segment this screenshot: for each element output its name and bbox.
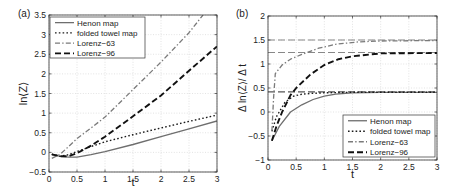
- y-tick-label: 0: [41, 147, 46, 157]
- panel-b-plot: 00.511.522.53−1−0.500.511.52tΔ ln⟨Z⟩/ Δ …: [236, 8, 440, 180]
- y-tick-label: 2: [260, 11, 265, 21]
- legend-entry-label: Lorenz−63: [370, 138, 409, 147]
- y-tick-label: 1: [260, 59, 265, 69]
- legend: Henon mapfolded towel mapLorenz−63Lorenz…: [50, 17, 145, 58]
- x-tick-label: 2: [378, 162, 383, 172]
- legend-entry-label: Lorenz−96: [370, 148, 409, 157]
- y-tick-label: 0.5: [34, 128, 46, 138]
- figure: 00.511.522.53−0.500.511.522.533.5tln⟨Z⟩(…: [0, 0, 453, 189]
- y-tick-label: 3.5: [34, 10, 46, 20]
- x-axis-label: t: [351, 168, 354, 180]
- x-tick-label: 3: [215, 174, 220, 184]
- panel-a-plot: 00.511.522.53−0.500.511.522.533.5tln⟨Z⟩(…: [17, 8, 220, 188]
- y-tick-label: 1: [41, 108, 46, 118]
- x-tick-label: 2: [159, 174, 164, 184]
- x-tick-label: 0.5: [290, 162, 302, 172]
- x-tick-label: 2.5: [403, 162, 415, 172]
- legend: Henon mapfolded towel mapLorenz−63Lorenz…: [343, 115, 435, 157]
- panel-label: (b): [236, 8, 248, 19]
- y-tick-label: −0.5: [29, 167, 46, 177]
- x-tick-label: 1: [103, 174, 108, 184]
- legend-entry-label: Lorenz−96: [77, 49, 116, 58]
- x-axis-label: t: [131, 176, 134, 188]
- y-tick-label: 0: [260, 107, 265, 117]
- y-tick-label: −1: [255, 155, 265, 165]
- y-axis-label: Δ ln⟨Z⟩/ Δ t: [237, 64, 248, 112]
- x-tick-label: 0: [266, 162, 271, 172]
- x-tick-label: 2.5: [183, 174, 195, 184]
- x-tick-label: 0: [47, 174, 52, 184]
- legend-entry-label: folded towel map: [77, 29, 138, 38]
- legend-entry-label: Henon map: [77, 19, 119, 28]
- y-tick-label: 0.5: [253, 83, 265, 93]
- y-axis-label: ln⟨Z⟩: [17, 82, 29, 105]
- y-tick-label: 1.5: [34, 89, 46, 99]
- x-tick-label: 1: [322, 162, 327, 172]
- legend-entry-label: Henon map: [370, 117, 412, 126]
- x-tick-label: 0.5: [71, 174, 83, 184]
- y-tick-label: 2: [41, 69, 46, 79]
- y-tick-label: 1.5: [253, 35, 265, 45]
- y-tick-label: 2.5: [34, 49, 46, 59]
- legend-entry-label: Lorenz−63: [77, 39, 116, 48]
- y-tick-label: −0.5: [248, 131, 265, 141]
- panel-label: (a): [18, 8, 30, 19]
- legend-entry-label: folded towel map: [370, 127, 431, 136]
- x-tick-label: 3: [435, 162, 440, 172]
- y-tick-label: 3: [41, 30, 46, 40]
